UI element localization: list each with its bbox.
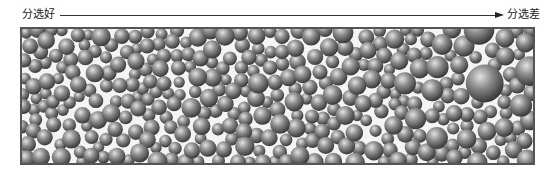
grain — [495, 118, 514, 137]
grain — [385, 30, 404, 49]
grain — [199, 140, 216, 157]
grain — [432, 34, 453, 55]
grain — [223, 52, 237, 66]
grain — [355, 95, 372, 112]
grain — [425, 108, 440, 123]
grain — [360, 114, 372, 126]
grain — [294, 65, 312, 83]
grain — [302, 29, 320, 46]
grain — [426, 56, 448, 78]
grain — [89, 93, 104, 108]
grain — [38, 32, 55, 49]
grain — [102, 104, 120, 122]
grain — [108, 122, 123, 137]
grain — [312, 64, 327, 79]
grain — [140, 38, 155, 53]
grain — [450, 56, 468, 74]
grain — [85, 130, 99, 144]
grain — [181, 98, 201, 118]
grain — [478, 122, 497, 141]
grain — [108, 148, 125, 163]
grain — [114, 29, 129, 44]
grain — [112, 78, 127, 93]
arrow-line — [60, 15, 497, 16]
grain — [39, 73, 56, 90]
grain — [22, 136, 36, 152]
grain — [58, 38, 75, 55]
grain — [22, 38, 38, 54]
grain — [235, 137, 254, 156]
label-well-sorted: 分选好 — [22, 8, 55, 21]
grain — [285, 92, 304, 111]
grain — [370, 125, 382, 137]
grain — [325, 153, 342, 163]
grain — [127, 53, 144, 70]
grain — [130, 144, 149, 163]
grain — [320, 38, 338, 56]
grain — [274, 29, 289, 44]
grain — [248, 29, 266, 45]
grain — [200, 89, 218, 107]
grain — [457, 129, 477, 149]
grain — [156, 76, 171, 91]
grain — [148, 152, 168, 164]
grain — [497, 95, 511, 109]
grain — [426, 127, 448, 149]
grain — [165, 34, 180, 49]
grain — [405, 108, 426, 129]
grain — [151, 99, 167, 115]
grain — [52, 148, 71, 163]
grain — [453, 88, 470, 105]
grain — [263, 60, 278, 75]
grain — [317, 137, 334, 154]
grain — [421, 79, 443, 101]
grain — [290, 146, 309, 163]
grain — [143, 74, 157, 88]
grain — [110, 57, 126, 73]
grain — [32, 148, 50, 163]
grain — [253, 107, 271, 125]
grain — [78, 50, 94, 66]
grain — [466, 65, 504, 103]
grain — [62, 130, 81, 149]
grain — [83, 148, 99, 163]
grain — [323, 85, 343, 105]
grain — [100, 79, 114, 93]
grain — [184, 142, 200, 158]
grain — [360, 42, 377, 59]
grain — [305, 109, 319, 123]
grain — [394, 72, 416, 94]
grain — [74, 107, 91, 124]
grain — [174, 126, 191, 143]
grain — [119, 111, 133, 125]
grain — [326, 55, 340, 69]
grain — [46, 117, 61, 132]
grain — [307, 49, 323, 65]
grain — [336, 106, 355, 125]
grain — [446, 105, 463, 122]
grain — [270, 114, 290, 134]
grain — [342, 57, 360, 75]
label-poorly-sorted: 分选差 — [507, 8, 540, 21]
grain — [271, 88, 285, 102]
grain — [287, 40, 304, 57]
grain — [174, 77, 185, 88]
grain — [100, 51, 112, 63]
grain — [171, 60, 186, 75]
grain — [225, 83, 242, 100]
grain — [37, 129, 53, 145]
grain-frame — [20, 27, 535, 165]
arrow-head-icon — [495, 12, 504, 18]
grain — [496, 47, 515, 66]
grain — [70, 76, 87, 93]
grain — [364, 141, 383, 160]
grain — [128, 30, 142, 44]
grain — [130, 100, 146, 116]
grain — [216, 141, 232, 157]
grain — [140, 29, 154, 39]
grain — [152, 60, 169, 77]
grain — [314, 124, 330, 140]
grain — [167, 96, 182, 111]
grain — [241, 50, 256, 65]
grain — [348, 76, 367, 95]
